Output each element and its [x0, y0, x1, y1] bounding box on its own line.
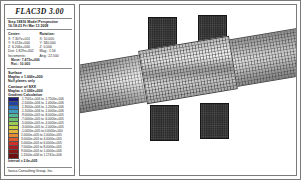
legend-range-label: 1.1000e+006 to 1.1741e+006: [21, 154, 62, 157]
model-plot-panel[interactable]: [79, 4, 297, 176]
contour-interval: Interval = 2.0e+005: [5, 158, 74, 163]
info-panel: FLAC3D 3.00 Step 18816 Model Perspective…: [4, 4, 75, 176]
contour-legend: -1.7561e+006 to -1.7500e+006-1.5000e+006…: [5, 97, 74, 157]
divider: [7, 167, 72, 168]
flac3d-plot-window: FLAC3D 3.00 Step 18816 Model Perspective…: [0, 0, 301, 180]
rot-value: Rot.: 10.000: [8, 62, 71, 66]
divider: [7, 29, 72, 30]
legend-row: 1.1000e+006 to 1.1741e+006: [8, 154, 71, 158]
panel-footer: Itasca Consulting Group, Inc.: [5, 167, 74, 174]
company-name: Itasca Consulting Group, Inc.: [5, 169, 74, 173]
pier-block-lower-left: [150, 105, 179, 141]
model-scene: [80, 5, 296, 175]
divider: [7, 18, 72, 19]
view-parameters: Center: X: 7.307e+001 Y: 9.413e+000 Z: 6…: [5, 31, 74, 67]
divider: [7, 68, 72, 69]
legend-color-swatch: [8, 153, 19, 158]
timestamp-line: 16:18:23 Fri Mar 13 2009: [5, 24, 74, 28]
pier-block-lower-right: [200, 103, 229, 139]
ang-value: Ang.: 22.500: [40, 54, 72, 58]
product-title: FLAC3D 3.00: [5, 5, 74, 17]
